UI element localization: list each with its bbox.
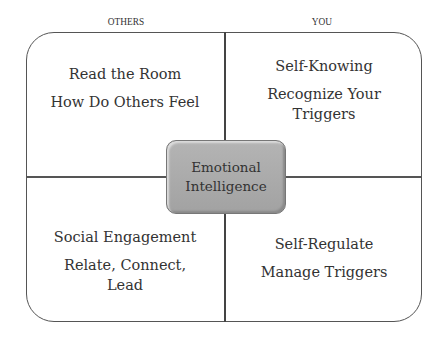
quadrant-title: Self-Regulate xyxy=(229,234,419,254)
quadrant-title: Read the Room xyxy=(30,64,220,84)
quadrant-subtitle-line2: Triggers xyxy=(229,104,419,124)
quadrant-subtitle-line1: Recognize Your xyxy=(229,84,419,104)
quadrant-top-left: Read the Room How Do Others Feel xyxy=(30,64,220,112)
center-label-line2: Intelligence xyxy=(185,177,266,196)
column-label-you: YOU xyxy=(271,15,373,27)
column-label-others: OTHERS xyxy=(75,15,177,27)
quadrant-subtitle: Manage Triggers xyxy=(229,262,419,282)
center-label-line1: Emotional xyxy=(185,158,266,177)
quadrant-title: Social Engagement xyxy=(30,227,220,247)
center-concept-box: Emotional Intelligence xyxy=(166,140,286,214)
quadrant-subtitle-line1: Relate, Connect, xyxy=(30,255,220,275)
quadrant-bottom-left: Social Engagement Relate, Connect, Lead xyxy=(30,227,220,295)
quadrant-bottom-right: Self-Regulate Manage Triggers xyxy=(229,234,419,282)
quadrant-subtitle-line2: Lead xyxy=(30,275,220,295)
quadrant-top-right: Self-Knowing Recognize Your Triggers xyxy=(229,56,419,124)
quadrant-title: Self-Knowing xyxy=(229,56,419,76)
quadrant-subtitle: How Do Others Feel xyxy=(30,92,220,112)
